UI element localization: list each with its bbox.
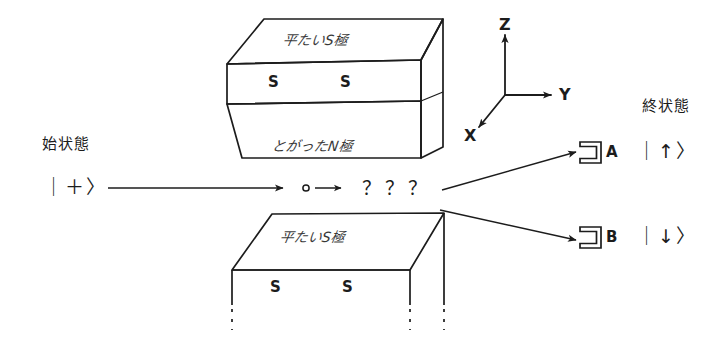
axis-x-label: X (464, 128, 476, 144)
magnet-bottom-pole-s-right: S (342, 280, 353, 295)
axis-y-label: Y (559, 87, 571, 103)
detector-b-ket: ｜↓〉 (637, 227, 697, 246)
magnet-bottom-pole-s-left: S (270, 280, 281, 295)
magnet-bottom-dashed-legs (232, 309, 444, 330)
detector-b-label: B (606, 230, 617, 245)
magnet-top-pole-s-right: S (340, 75, 351, 90)
final-state-label: 終状態 (642, 99, 690, 114)
unknown-state-marks: ？？？ (362, 179, 431, 198)
detector-a-icon (580, 142, 601, 163)
magnet-top-face-text: 平たいS極 (282, 33, 349, 47)
initial-state-ket: ｜＋〉 (44, 178, 107, 197)
particle-marker-dot (303, 185, 309, 191)
diagram-vector-layer (0, 0, 726, 338)
branch-arrow-down (440, 210, 576, 240)
axis-z-label: Z (499, 17, 511, 33)
branch-arrow-up (442, 152, 576, 190)
detector-a-ket: ｜↑〉 (637, 142, 697, 161)
magnet-bottom-face-text: 平たいS極 (279, 230, 346, 244)
detector-a-label: A (606, 145, 618, 160)
axis-x-line (479, 95, 505, 127)
coordinate-axes (479, 35, 551, 127)
magnet-top-bottom-face-text: とがったN極 (271, 139, 354, 153)
magnet-top-pole-s-left: S (268, 75, 279, 90)
initial-state-label: 始状態 (42, 137, 90, 152)
detector-b-icon (580, 227, 601, 248)
figure-canvas: 始状態 ｜＋〉 終状態 ？？？ 平たいS極 S S とがったN極 平たいS極 S… (0, 0, 726, 338)
magnet-bottom-shape (232, 213, 444, 305)
